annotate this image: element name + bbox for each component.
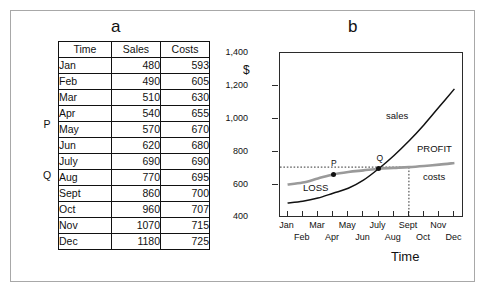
cell-sales: 1180	[112, 234, 161, 250]
x-tickmark	[438, 211, 439, 217]
header-costs: Costs	[161, 42, 210, 58]
point-p	[331, 172, 336, 177]
x-tick-label: Feb	[287, 232, 317, 242]
y-tick-1200: 1,200	[220, 80, 248, 90]
x-tick-label: Sept	[393, 220, 423, 230]
y-tickmark	[272, 184, 278, 185]
y-tickmark	[272, 85, 278, 86]
x-tickmark	[378, 211, 379, 217]
loss-region-label: LOSS	[303, 182, 328, 193]
row-marker-q: Q	[39, 169, 55, 181]
x-tickmark	[393, 211, 394, 217]
y-tick-1000: 1,000	[220, 113, 248, 123]
cell-sales: 490	[112, 74, 161, 90]
cell-time: Aug	[59, 170, 112, 186]
y-tickmark	[272, 118, 278, 119]
x-tickmark	[347, 211, 348, 217]
cell-sales: 860	[112, 186, 161, 202]
table-row: Feb490605	[59, 74, 210, 90]
cell-costs: 670	[161, 122, 210, 138]
cell-costs: 715	[161, 218, 210, 234]
x-tickmark	[332, 211, 333, 217]
table-row: Sept860700	[59, 186, 210, 202]
cell-sales: 1070	[112, 218, 161, 234]
table-row: May570670	[59, 122, 210, 138]
x-tick-label: Jan	[272, 220, 302, 230]
point-p-label: P	[331, 158, 337, 168]
x-tickmark	[453, 211, 454, 217]
table-row: Nov1070715	[59, 218, 210, 234]
x-tick-label: Jun	[347, 232, 377, 242]
panel-a: a P Q Time Sales Costs Jan480593Feb49060…	[11, 11, 239, 283]
x-tickmark	[317, 211, 318, 217]
y-axis-label: $	[243, 63, 250, 77]
cell-sales: 540	[112, 106, 161, 122]
cell-costs: 655	[161, 106, 210, 122]
cell-time: Sept	[59, 186, 112, 202]
cell-costs: 680	[161, 138, 210, 154]
cell-time: May	[59, 122, 112, 138]
y-tick-600: 600	[220, 179, 248, 189]
table-body: Jan480593Feb490605Mar510630Apr540655May5…	[59, 58, 210, 250]
sales-costs-table: Time Sales Costs Jan480593Feb490605Mar51…	[58, 41, 210, 250]
table-row: Jun620680	[59, 138, 210, 154]
cell-time: Oct	[59, 202, 112, 218]
table-row: Mar510630	[59, 90, 210, 106]
cell-sales: 770	[112, 170, 161, 186]
table-row: Apr540655	[59, 106, 210, 122]
cell-costs: 700	[161, 186, 210, 202]
table-row: Jan480593	[59, 58, 210, 74]
x-tickmark	[287, 211, 288, 217]
header-sales: Sales	[112, 42, 161, 58]
plot-area: P Q sales PROFIT costs LOSS	[279, 52, 463, 217]
x-tick-label: Mar	[302, 220, 332, 230]
cell-costs: 690	[161, 154, 210, 170]
cell-time: Jan	[59, 58, 112, 74]
x-tickmark	[302, 211, 303, 217]
y-tick-800: 800	[220, 146, 248, 156]
x-tick-label: Oct	[408, 232, 438, 242]
table-row: Aug770695	[59, 170, 210, 186]
costs-series-label: costs	[423, 171, 445, 182]
cell-costs: 695	[161, 170, 210, 186]
row-marker-p: P	[39, 118, 55, 130]
y-tick-1400: 1,400	[220, 47, 248, 57]
cell-costs: 725	[161, 234, 210, 250]
cell-sales: 570	[112, 122, 161, 138]
x-tick-label: Apr	[317, 232, 347, 242]
x-tick-label: Dec	[438, 232, 468, 242]
table-row: Oct960707	[59, 202, 210, 218]
x-tick-label: Nov	[423, 220, 453, 230]
cell-sales: 620	[112, 138, 161, 154]
x-tickmark	[408, 211, 409, 217]
x-tickmark	[423, 211, 424, 217]
cell-costs: 707	[161, 202, 210, 218]
cell-sales: 960	[112, 202, 161, 218]
panel-a-label: a	[111, 17, 121, 37]
cell-sales: 690	[112, 154, 161, 170]
cell-sales: 480	[112, 58, 161, 74]
cell-time: Mar	[59, 90, 112, 106]
cell-time: July	[59, 154, 112, 170]
cell-costs: 593	[161, 58, 210, 74]
figure-frame: a P Q Time Sales Costs Jan480593Feb49060…	[10, 10, 475, 282]
y-tick-400: 400	[220, 211, 248, 221]
cell-costs: 630	[161, 90, 210, 106]
y-tickmark	[272, 151, 278, 152]
x-tick-label: Aug	[378, 232, 408, 242]
x-axis-label: Time	[391, 249, 419, 264]
panel-b-label: b	[348, 17, 357, 37]
panel-b: b $ 1,400 1,200 1,000 800 600 400	[239, 11, 476, 283]
sales-series-label: sales	[386, 110, 408, 121]
cell-time: Apr	[59, 106, 112, 122]
cell-costs: 605	[161, 74, 210, 90]
cell-time: Feb	[59, 74, 112, 90]
table-row: July690690	[59, 154, 210, 170]
cell-time: Dec	[59, 234, 112, 250]
table-header-row: Time Sales Costs	[59, 42, 210, 58]
point-q-label: Q	[377, 153, 384, 163]
cell-sales: 510	[112, 90, 161, 106]
x-tick-label: May	[332, 220, 362, 230]
table-row: Dec1180725	[59, 234, 210, 250]
x-tick-label: July	[363, 220, 393, 230]
